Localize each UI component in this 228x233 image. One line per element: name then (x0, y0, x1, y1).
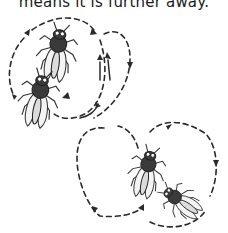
arrow-icon (24, 29, 30, 36)
arrow-icon (213, 160, 219, 167)
fly-bottom-lower (151, 174, 209, 228)
arrow-icon (95, 102, 101, 108)
arrow-icon (138, 204, 144, 211)
fly-top-upper (33, 20, 81, 84)
arrow-icon (127, 62, 133, 69)
arrow-icon (105, 52, 111, 59)
arrow-icon (62, 92, 70, 99)
arrow-icon (12, 94, 17, 100)
flies-illustration (0, 0, 228, 233)
fly-bottom-upper (124, 142, 170, 202)
arrow-icon (97, 54, 103, 60)
arrow-icon (166, 124, 172, 130)
